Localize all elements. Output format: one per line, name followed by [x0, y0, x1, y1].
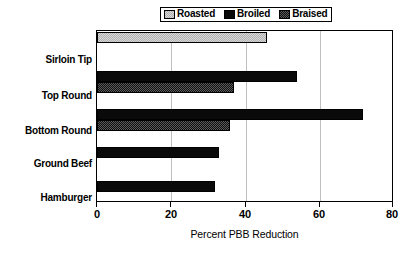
chart-legend: Roasted Broiled Braised	[160, 7, 332, 22]
x-tick-label-20: 20	[156, 208, 186, 220]
legend-entry-braised: Braised	[279, 9, 327, 19]
x-tick-label-0: 0	[82, 208, 112, 220]
x-tick-label-40: 40	[230, 208, 260, 220]
y-label-sirloin-tip: Sirloin Tip	[0, 54, 92, 65]
y-label-hamburger: Hamburger	[0, 192, 92, 203]
bar-hamburger-broiled	[97, 181, 215, 192]
x-tick-60	[319, 202, 320, 207]
legend-swatch-broiled-icon	[224, 10, 235, 19]
legend-swatch-braised-icon	[279, 10, 290, 19]
x-axis-ticks	[96, 202, 393, 207]
legend-label-roasted: Roasted	[177, 9, 215, 19]
bar-sirloin-tip-roasted	[97, 32, 267, 43]
bar-ground-beef-broiled	[97, 147, 219, 158]
bar-chart: Roasted Broiled Braised Sirloin Tip Top …	[0, 0, 415, 253]
legend-swatch-roasted-icon	[164, 10, 175, 19]
bar-top-round-braised	[97, 82, 234, 93]
legend-entry-broiled: Broiled	[224, 9, 270, 19]
x-tick-label-60: 60	[304, 208, 334, 220]
x-tick-40	[245, 202, 246, 207]
y-label-ground-beef: Ground Beef	[0, 158, 92, 169]
plot-area	[96, 30, 393, 202]
y-label-top-round: Top Round	[0, 90, 92, 101]
bar-bottom-round-braised	[97, 120, 230, 131]
legend-entry-roasted: Roasted	[164, 9, 215, 19]
x-tick-20	[170, 202, 171, 207]
bar-bottom-round-broiled	[97, 109, 363, 120]
x-tick-0	[96, 202, 97, 207]
legend-label-braised: Braised	[292, 9, 327, 19]
x-axis-title: Percent PBB Reduction	[96, 228, 393, 240]
x-axis-tick-labels: 0 20 40 60 80	[0, 208, 415, 222]
x-tick-80	[392, 202, 393, 207]
bar-top-round-broiled	[97, 71, 297, 82]
y-label-bottom-round: Bottom Round	[0, 125, 92, 136]
x-tick-label-80: 80	[377, 208, 407, 220]
y-axis-category-labels: Sirloin Tip Top Round Bottom Round Groun…	[0, 30, 92, 202]
legend-label-broiled: Broiled	[237, 9, 270, 19]
